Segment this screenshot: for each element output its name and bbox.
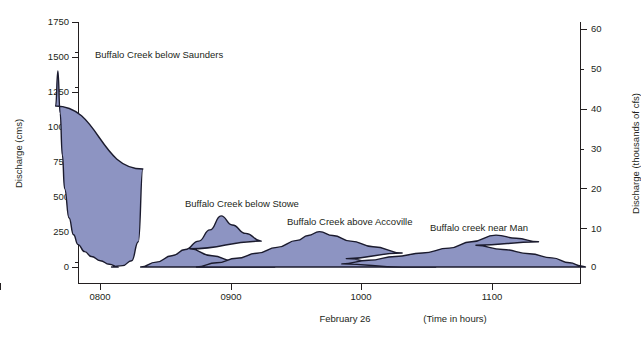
series-label-saunders: Buffalo Creek below Saunders — [95, 49, 223, 60]
hydrograph-area-0 — [56, 71, 143, 267]
series-label-man: Buffalo creek near Man — [430, 222, 528, 233]
series-label-stowe: Buffalo Creek below Stowe — [185, 198, 299, 209]
series-label-accoville: Buffalo Creek above Accoville — [287, 216, 413, 227]
